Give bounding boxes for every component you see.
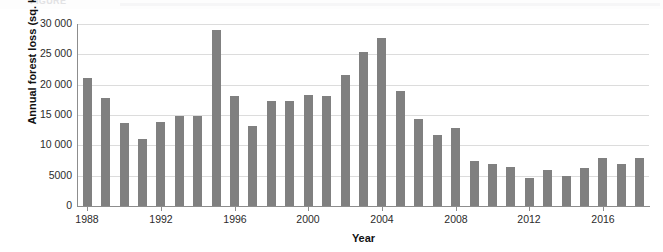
y-axis-tick-label: 0 bbox=[24, 200, 72, 211]
y-axis-title: Annual forest loss (sq. km) bbox=[26, 0, 38, 149]
x-axis-tick-mark bbox=[235, 207, 236, 211]
bar bbox=[138, 139, 147, 206]
bar bbox=[396, 91, 405, 206]
x-axis-tick-mark bbox=[603, 207, 604, 211]
bar bbox=[230, 96, 239, 206]
x-axis-tick-label: 2000 bbox=[286, 213, 330, 225]
x-axis-tick-mark bbox=[456, 207, 457, 211]
figure-caption-strip: FIGURE bbox=[0, 0, 663, 9]
bar bbox=[506, 167, 515, 206]
bar bbox=[525, 178, 534, 206]
x-axis-tick-label: 1996 bbox=[213, 213, 257, 225]
bar bbox=[562, 176, 571, 206]
bar bbox=[101, 98, 110, 206]
bar bbox=[212, 30, 221, 206]
bar bbox=[248, 126, 257, 206]
bar bbox=[120, 123, 129, 206]
figure-root: FIGURE 0500010 00015 00020 00025 00030 0… bbox=[0, 0, 663, 252]
bar bbox=[267, 101, 276, 206]
x-axis-tick-label: 2008 bbox=[434, 213, 478, 225]
bar bbox=[433, 135, 442, 206]
bar bbox=[580, 168, 589, 206]
x-axis-tick-mark bbox=[529, 207, 530, 211]
x-axis-tick-mark bbox=[308, 207, 309, 211]
x-axis-tick-mark bbox=[161, 207, 162, 211]
bar bbox=[635, 158, 644, 206]
bar bbox=[488, 164, 497, 206]
bar bbox=[598, 158, 607, 206]
bar bbox=[470, 161, 479, 206]
x-axis-tick-label: 2004 bbox=[360, 213, 404, 225]
bar bbox=[193, 116, 202, 206]
x-axis-tick-label: 2012 bbox=[507, 213, 551, 225]
bar bbox=[285, 101, 294, 206]
x-axis-tick-label: 1992 bbox=[139, 213, 183, 225]
bar bbox=[83, 78, 92, 206]
bar bbox=[451, 128, 460, 206]
bar bbox=[322, 96, 331, 206]
bar bbox=[304, 95, 313, 206]
bar bbox=[617, 164, 626, 206]
x-axis-tick-mark bbox=[87, 207, 88, 211]
x-axis-tick-label: 2016 bbox=[581, 213, 625, 225]
bar bbox=[377, 38, 386, 206]
x-axis-title: Year bbox=[77, 232, 650, 244]
x-axis-tick-mark bbox=[382, 207, 383, 211]
caption-rule bbox=[120, 3, 660, 6]
y-axis-tick-label: 5000 bbox=[24, 170, 72, 181]
bar bbox=[414, 119, 423, 206]
bar bbox=[175, 116, 184, 206]
bar bbox=[341, 75, 350, 206]
bar bbox=[359, 52, 368, 206]
x-axis-tick-label: 1988 bbox=[65, 213, 109, 225]
bar bbox=[156, 122, 165, 206]
bar bbox=[543, 170, 552, 206]
x-axis-line bbox=[77, 206, 650, 207]
plot-area bbox=[78, 24, 649, 206]
gridline bbox=[78, 24, 649, 25]
